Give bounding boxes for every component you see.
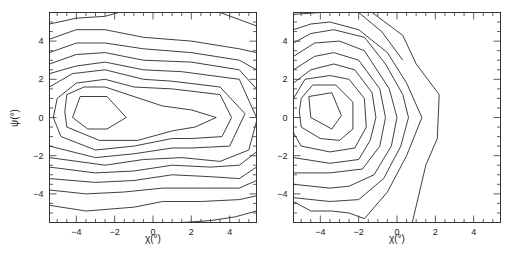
- contour-line: [220, 13, 256, 26]
- contour-figure: −4−2024−4−2024 χ(°) ψ(°) −4−2024−4−2024 …: [0, 0, 513, 255]
- contour-line: [50, 181, 257, 194]
- left-contour-lines: [50, 13, 257, 223]
- x-tick-label: 2: [433, 227, 438, 237]
- x-tick-label: 2: [189, 227, 194, 237]
- left-contour-panel: −4−2024−4−2024 χ(°) ψ(°): [9, 13, 257, 245]
- left-x-axis-label: χ(°): [145, 233, 161, 244]
- right-contour-panel: −4−2024−4−2024 χ(°): [277, 13, 500, 245]
- right-x-axis-label: χ(°): [389, 233, 405, 244]
- x-tick-label: −2: [110, 227, 120, 237]
- y-tick-label: 4: [38, 36, 43, 46]
- contour-line: [309, 93, 342, 129]
- contour-line: [294, 76, 367, 152]
- contour-line: [50, 152, 257, 173]
- contour-line: [50, 13, 119, 25]
- contour-line: [50, 196, 257, 211]
- y-tick-label: −4: [33, 189, 43, 199]
- contour-line: [50, 121, 257, 165]
- x-tick-label: −4: [315, 227, 325, 237]
- contour-line: [50, 167, 257, 182]
- left-y-axis-label: ψ(°): [9, 109, 20, 127]
- y-tick-label: 0: [38, 113, 43, 123]
- contour-line: [182, 211, 257, 223]
- left-plot-frame: [50, 13, 257, 223]
- y-tick-label: 2: [282, 74, 287, 84]
- contour-line: [294, 22, 422, 219]
- x-tick-label: −4: [71, 227, 81, 237]
- left-axis-ticks: [50, 13, 257, 223]
- y-tick-label: −4: [277, 189, 287, 199]
- contour-line: [65, 87, 216, 140]
- right-tick-labels: −4−2024−4−2024: [277, 36, 476, 236]
- y-tick-label: 4: [282, 36, 287, 46]
- y-tick-label: 2: [38, 74, 43, 84]
- x-tick-label: 4: [227, 227, 232, 237]
- contour-line: [372, 13, 439, 223]
- y-tick-label: −2: [277, 151, 287, 161]
- left-tick-labels: −4−2024−4−2024: [33, 36, 232, 236]
- contour-line: [50, 62, 257, 117]
- x-tick-label: 4: [471, 227, 476, 237]
- contour-line: [294, 41, 398, 188]
- contour-line: [294, 53, 386, 173]
- contour-line: [359, 13, 403, 61]
- x-tick-label: −2: [354, 227, 364, 237]
- right-contour-lines: [294, 13, 440, 223]
- y-tick-label: −2: [33, 151, 43, 161]
- y-tick-label: 0: [282, 113, 287, 123]
- contour-line: [73, 97, 127, 130]
